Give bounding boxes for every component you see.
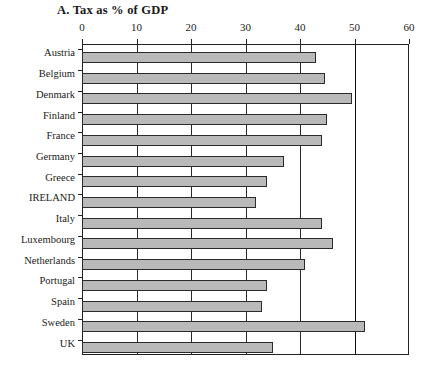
bar-row: Greece	[82, 168, 409, 189]
x-tick-label: 20	[186, 21, 197, 33]
bar-row: France	[82, 127, 409, 148]
category-tick	[78, 194, 82, 195]
bar-row: Portugal	[82, 272, 409, 293]
bar	[82, 321, 365, 332]
x-tick-label: 40	[295, 21, 306, 33]
bar-row: Sweden	[82, 314, 409, 335]
x-tick-label: 0	[79, 21, 85, 33]
tick-mark-60	[409, 39, 410, 44]
bar	[82, 259, 305, 270]
category-label: Belgium	[39, 68, 75, 79]
category-label: Sweden	[42, 317, 75, 328]
bar-rows: AustriaBelgiumDenmarkFinlandFranceGerman…	[82, 44, 409, 355]
category-label: Greece	[45, 172, 75, 183]
category-label: Austria	[44, 47, 75, 58]
bar	[82, 280, 267, 291]
category-tick	[78, 257, 82, 258]
bar-row: Italy	[82, 210, 409, 231]
category-label: IRELAND	[29, 192, 75, 203]
bar	[82, 301, 262, 312]
bar	[82, 156, 284, 167]
bar	[82, 342, 273, 353]
category-tick	[78, 340, 82, 341]
bar	[82, 73, 325, 84]
category-tick	[78, 91, 82, 92]
x-tick-label: 30	[240, 21, 251, 33]
bar-row: IRELAND	[82, 189, 409, 210]
x-tick-label: 60	[404, 21, 415, 33]
category-label: Netherlands	[24, 255, 75, 266]
bar	[82, 135, 322, 146]
bar-row: Luxembourg	[82, 231, 409, 252]
category-label: Luxembourg	[21, 234, 75, 245]
category-label: France	[46, 130, 75, 141]
category-label: UK	[60, 338, 75, 349]
category-tick	[78, 277, 82, 278]
bar	[82, 93, 352, 104]
category-tick	[78, 132, 82, 133]
bar	[82, 238, 333, 249]
category-label: Germany	[36, 151, 75, 162]
bar	[82, 197, 256, 208]
category-tick	[78, 70, 82, 71]
bar	[82, 176, 267, 187]
x-tick-label: 50	[349, 21, 360, 33]
bar-row: Finland	[82, 106, 409, 127]
bar-row: Netherlands	[82, 251, 409, 272]
category-tick	[78, 319, 82, 320]
bar	[82, 218, 322, 229]
bar-row: Austria	[82, 44, 409, 65]
category-tick	[78, 49, 82, 50]
category-label: Portugal	[39, 275, 75, 286]
category-tick	[78, 298, 82, 299]
category-tick	[78, 174, 82, 175]
category-tick	[78, 236, 82, 237]
chart-container: A. Tax as % of GDP 0102030405060 Austria…	[0, 0, 428, 369]
category-label: Denmark	[36, 89, 75, 100]
x-tick-label: 10	[131, 21, 142, 33]
bar-row: Spain	[82, 293, 409, 314]
category-label: Italy	[56, 213, 75, 224]
category-label: Spain	[51, 296, 75, 307]
category-tick	[78, 215, 82, 216]
bar-row: UK	[82, 334, 409, 355]
category-tick	[78, 153, 82, 154]
bar-row: Denmark	[82, 85, 409, 106]
bar	[82, 114, 327, 125]
chart-title: A. Tax as % of GDP	[57, 3, 168, 18]
category-label: Finland	[43, 110, 75, 121]
category-tick	[78, 112, 82, 113]
bar-row: Belgium	[82, 65, 409, 86]
bar	[82, 52, 316, 63]
bar-row: Germany	[82, 148, 409, 169]
plot-area: 0102030405060 AustriaBelgiumDenmarkFinla…	[82, 44, 409, 355]
